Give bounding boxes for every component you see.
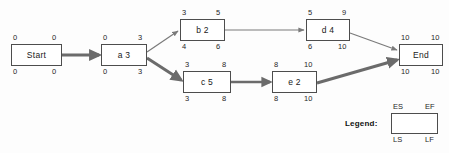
node-d[interactable]: d 4 <box>306 19 350 41</box>
node-start-lf: 0 <box>52 68 56 76</box>
node-a[interactable]: a 3 <box>101 44 147 66</box>
node-e-ls: 8 <box>274 95 278 103</box>
legend-ls: LS <box>393 136 402 144</box>
edge-a-c <box>147 58 181 80</box>
node-b-ef: 5 <box>216 9 220 17</box>
node-b-ls: 4 <box>182 43 186 51</box>
node-start-label: Start <box>27 50 46 60</box>
node-end-ls: 10 <box>401 68 409 76</box>
node-b-lf: 6 <box>216 43 220 51</box>
node-end[interactable]: End <box>399 44 443 66</box>
legend-es: ES <box>393 103 403 111</box>
node-start-ls: 0 <box>13 68 17 76</box>
node-d-ls: 6 <box>308 43 312 51</box>
node-end-ef: 10 <box>431 34 439 42</box>
node-c-ls: 3 <box>185 95 189 103</box>
node-c[interactable]: c 5 <box>183 71 231 93</box>
node-start-es: 0 <box>13 34 17 42</box>
node-d-ef: 9 <box>342 9 346 17</box>
network-diagram: 0 0 Start 0 0 0 3 a 3 0 3 3 5 b 2 4 6 3 … <box>0 0 449 153</box>
node-e-ef: 10 <box>304 61 312 69</box>
edge-e-end <box>317 60 397 83</box>
edge-d-end <box>350 33 397 50</box>
node-start[interactable]: Start <box>11 44 62 66</box>
node-start-ef: 0 <box>52 34 56 42</box>
edge-a-b <box>147 31 178 52</box>
node-e-es: 8 <box>274 61 278 69</box>
node-c-es: 3 <box>185 61 189 69</box>
node-c-ef: 8 <box>222 61 226 69</box>
node-a-es: 0 <box>103 34 107 42</box>
legend-lf: LF <box>425 136 434 144</box>
node-b-es: 3 <box>182 9 186 17</box>
node-e[interactable]: e 2 <box>272 71 317 93</box>
node-a-ls: 0 <box>103 68 107 76</box>
node-d-label: d 4 <box>322 25 335 35</box>
legend-box <box>391 113 438 134</box>
node-e-lf: 10 <box>304 95 312 103</box>
node-end-lf: 10 <box>431 68 439 76</box>
node-end-label: End <box>413 50 429 60</box>
node-a-lf: 3 <box>138 68 142 76</box>
node-end-es: 10 <box>401 34 409 42</box>
legend-ef: EF <box>425 103 435 111</box>
node-e-label: e 2 <box>288 77 301 87</box>
node-d-lf: 10 <box>338 43 346 51</box>
node-b[interactable]: b 2 <box>180 19 225 41</box>
node-d-es: 5 <box>308 9 312 17</box>
node-c-label: c 5 <box>201 77 213 87</box>
node-b-label: b 2 <box>196 25 209 35</box>
node-c-lf: 8 <box>222 95 226 103</box>
legend-label: Legend: <box>345 119 378 128</box>
node-a-label: a 3 <box>118 50 131 60</box>
node-a-ef: 3 <box>138 34 142 42</box>
